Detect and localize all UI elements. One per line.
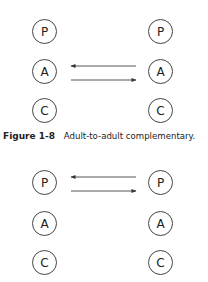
transaction-arrows <box>0 0 208 282</box>
